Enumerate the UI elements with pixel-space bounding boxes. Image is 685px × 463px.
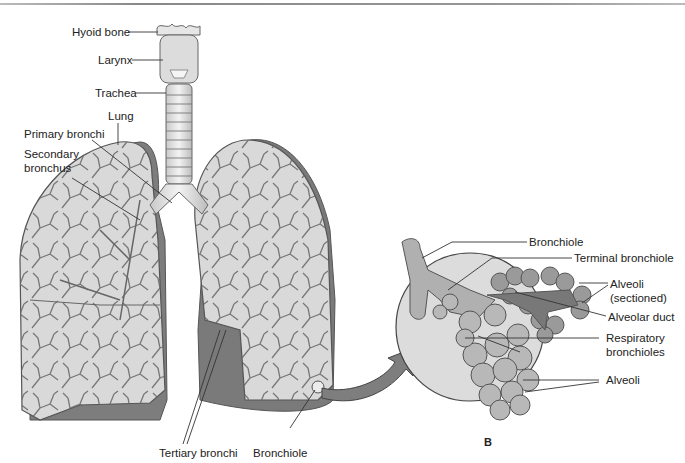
left-lung xyxy=(195,140,335,412)
label-lung: Lung xyxy=(108,109,134,123)
label-trachea: Trachea xyxy=(95,86,137,100)
label-bronchiole-a: Bronchiole xyxy=(253,446,307,460)
label-terminal-bronchiole: Terminal bronchiole xyxy=(574,251,674,265)
panel-letter-b: B xyxy=(484,436,492,448)
label-alveoli: Alveoli xyxy=(606,373,640,387)
label-alveolar-duct: Alveolar duct xyxy=(608,310,674,324)
label-secondary-bronchus-2: bronchus xyxy=(24,161,71,175)
respiratory-illustration xyxy=(0,0,685,463)
label-respiratory-bronchioles-1: Respiratory xyxy=(606,331,665,345)
label-primary-bronchi: Primary bronchi xyxy=(24,127,105,141)
label-alveoli-sectioned-1: Alveoli xyxy=(610,277,644,291)
right-lung xyxy=(20,142,167,420)
label-secondary-bronchus-1: Secondary xyxy=(24,147,79,161)
panel-b-magnified xyxy=(396,239,591,420)
label-hyoid-bone: Hyoid bone xyxy=(72,25,130,39)
label-larynx: Larynx xyxy=(98,53,133,67)
label-bronchiole-b: Bronchiole xyxy=(529,235,583,249)
label-alveoli-sectioned-2: (sectioned) xyxy=(610,291,667,305)
label-respiratory-bronchioles-2: bronchioles xyxy=(606,345,665,359)
label-tertiary-bronchi: Tertiary bronchi xyxy=(159,446,238,460)
